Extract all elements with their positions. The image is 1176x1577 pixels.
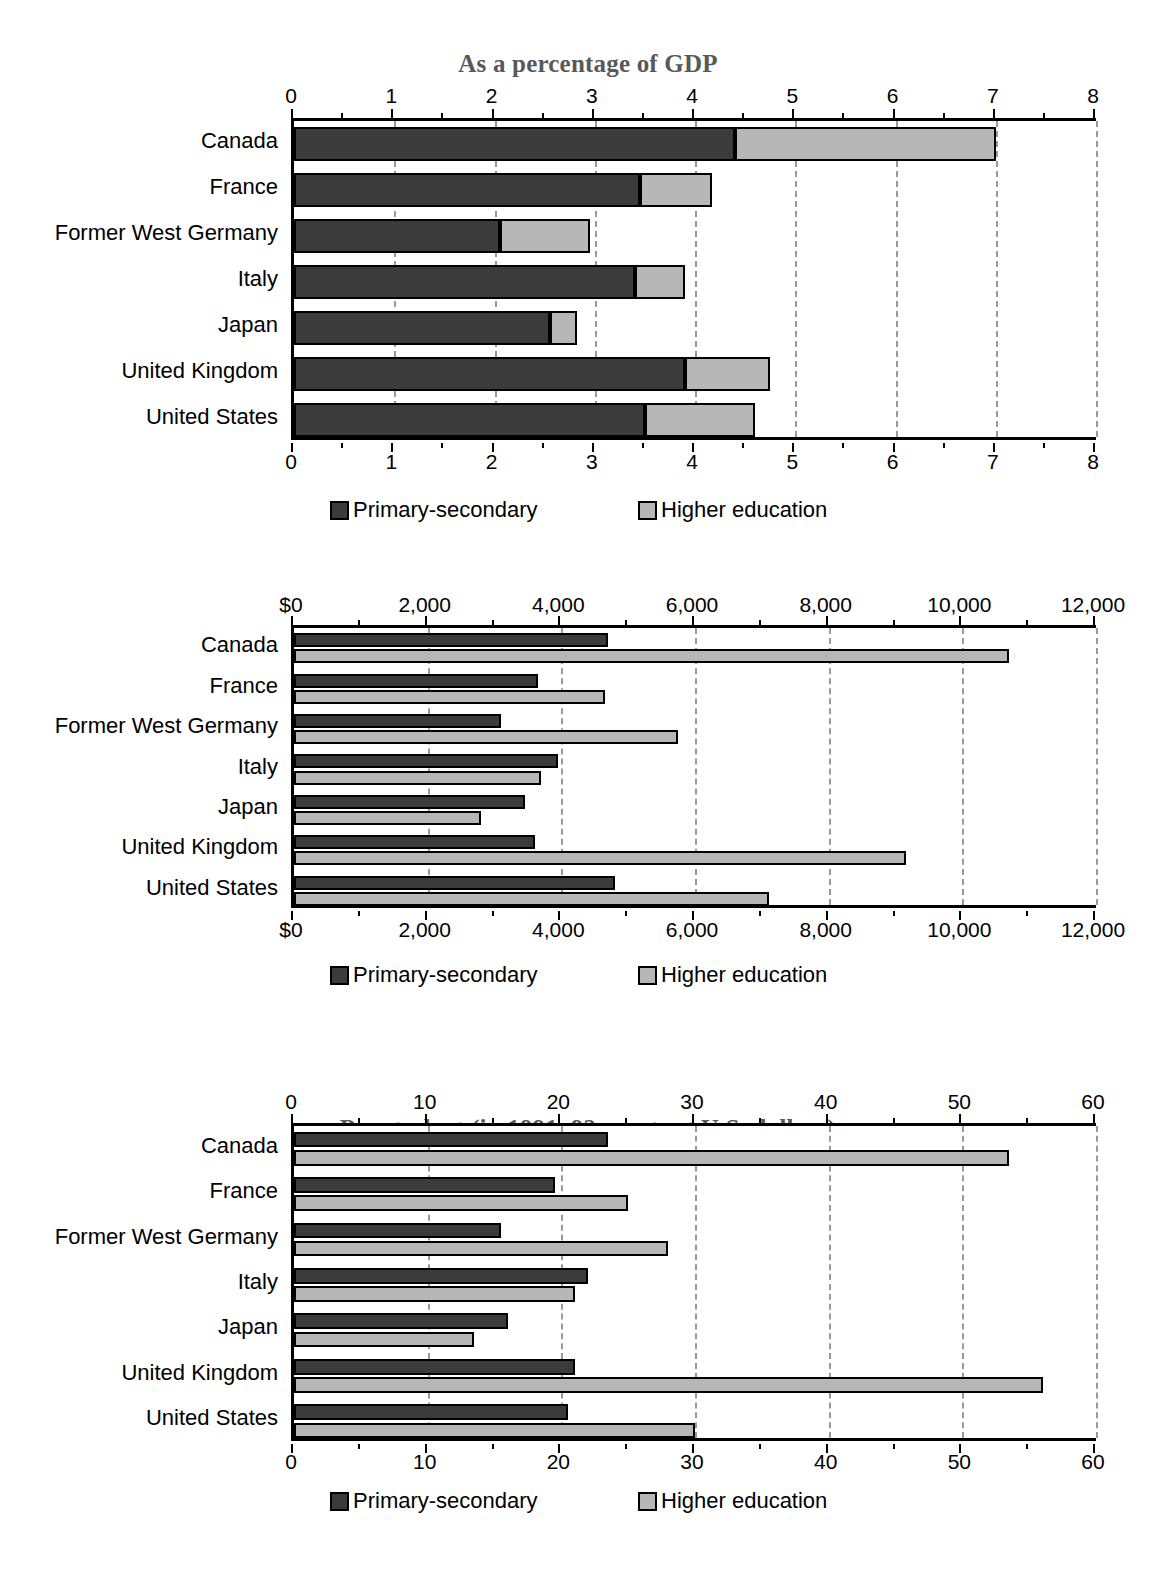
bar-group-row [294, 1262, 1096, 1307]
x-tick-label: 50 [948, 1090, 971, 1114]
x-tick-label: 40 [814, 1450, 837, 1474]
legend-item-higher-education[interactable]: Higher education [638, 962, 827, 988]
category-label: United States [0, 877, 278, 899]
bar-primary-secondary [294, 311, 550, 345]
category-label: Canada [0, 1135, 278, 1157]
legend-3: Primary-secondaryHigher education [0, 1488, 1176, 1516]
x-tick-label: 6 [887, 84, 899, 108]
plot-area-2 [291, 625, 1096, 908]
legend-2: Primary-secondaryHigher education [0, 962, 1176, 990]
category-label: Canada [0, 130, 278, 152]
category-label: United Kingdom [0, 360, 278, 382]
bar-higher-education [294, 1286, 575, 1302]
x-tick-label: 10 [413, 1450, 436, 1474]
x-tick-label: 50 [948, 1450, 971, 1474]
x-tick-label: 7 [987, 84, 999, 108]
legend-label-higher-education: Higher education [661, 497, 827, 523]
x-axis-labels-top-2: $02,0004,0006,0008,00010,00012,000 [0, 593, 1176, 617]
bar-primary-secondary [294, 795, 525, 809]
x-axis-ticks-top-2 [0, 616, 1176, 625]
bar-group-row [294, 1399, 1096, 1444]
x-tick-label: 3 [586, 84, 598, 108]
bar-primary-secondary [294, 1268, 588, 1284]
bar-primary-secondary [294, 403, 645, 437]
category-label: France [0, 176, 278, 198]
bar-higher-education [294, 1423, 695, 1439]
x-tick-label: 5 [786, 450, 798, 474]
x-tick-label: 10,000 [927, 593, 991, 617]
x-tick-label: 12,000 [1061, 593, 1125, 617]
bar-primary-secondary [294, 714, 501, 728]
bar-primary-secondary [294, 633, 608, 647]
bar-group-row [294, 871, 1096, 911]
bar-primary-secondary [294, 1223, 501, 1239]
bar-higher-education [500, 219, 590, 253]
x-axis-ticks-top-1 [0, 109, 1176, 118]
bar-group-row [294, 167, 1096, 213]
bar-primary-secondary [294, 127, 735, 161]
category-label: France [0, 675, 278, 697]
legend-label-primary-secondary: Primary-secondary [353, 962, 538, 988]
x-tick-label: 12,000 [1061, 918, 1125, 942]
x-tick-label: 2,000 [398, 918, 451, 942]
legend-swatch-icon [638, 1492, 657, 1511]
bar-group-row [294, 121, 1096, 167]
x-tick-label: 8,000 [799, 593, 852, 617]
bar-primary-secondary [294, 1313, 508, 1329]
x-tick-label: 0 [285, 1090, 297, 1114]
bar-group-row [294, 259, 1096, 305]
x-tick-label: 0 [285, 84, 297, 108]
legend-item-primary-secondary[interactable]: Primary-secondary [330, 497, 538, 523]
x-tick-label: 40 [814, 1090, 837, 1114]
bar-group-row [294, 1171, 1096, 1216]
bar-primary-secondary [294, 754, 558, 768]
x-tick-label: 8,000 [799, 918, 852, 942]
gridline [1096, 121, 1098, 437]
bar-group-row [294, 709, 1096, 749]
bar-higher-education [294, 730, 678, 744]
bar-higher-education [735, 127, 996, 161]
legend-swatch-icon [330, 1492, 349, 1511]
bar-higher-education [294, 1241, 668, 1257]
category-label: Former West Germany [0, 222, 278, 244]
x-axis-labels-bottom-1: 012345678 [0, 450, 1176, 474]
plot-area-3 [291, 1123, 1096, 1441]
x-tick-label: 60 [1081, 1090, 1104, 1114]
legend-item-primary-secondary[interactable]: Primary-secondary [330, 962, 538, 988]
legend-swatch-icon [330, 501, 349, 520]
category-label: United States [0, 1407, 278, 1429]
bar-primary-secondary [294, 219, 500, 253]
figure-page: As a percentage of GDP Per student (in 1… [0, 0, 1176, 1577]
bar-higher-education [294, 811, 481, 825]
x-tick-label: 4 [686, 84, 698, 108]
bar-higher-education [294, 1377, 1043, 1393]
bar-higher-education [294, 1195, 628, 1211]
bar-primary-secondary [294, 357, 685, 391]
bar-primary-secondary [294, 1359, 575, 1375]
category-label: France [0, 1180, 278, 1202]
legend-item-higher-education[interactable]: Higher education [638, 497, 827, 523]
x-tick-label: 10,000 [927, 918, 991, 942]
x-tick-label: 0 [285, 450, 297, 474]
category-label: Italy [0, 1271, 278, 1293]
bar-higher-education [294, 1150, 1009, 1166]
x-tick-label: 2,000 [398, 593, 451, 617]
x-tick-label: 4 [686, 450, 698, 474]
bar-group-row [294, 628, 1096, 668]
bar-higher-education [550, 311, 577, 345]
x-tick-label: 10 [413, 1090, 436, 1114]
category-label: Japan [0, 796, 278, 818]
legend-item-higher-education[interactable]: Higher education [638, 1488, 827, 1514]
gridline [1096, 1126, 1098, 1438]
x-tick-label: 5 [786, 84, 798, 108]
bar-primary-secondary [294, 876, 615, 890]
x-tick-label: 1 [385, 84, 397, 108]
legend-item-primary-secondary[interactable]: Primary-secondary [330, 1488, 538, 1514]
x-tick-label: 20 [547, 1090, 570, 1114]
bar-group-row [294, 749, 1096, 789]
x-tick-label: 6 [887, 450, 899, 474]
bar-group-row [294, 213, 1096, 259]
bar-primary-secondary [294, 835, 535, 849]
x-axis-labels-top-3: 0102030405060 [0, 1090, 1176, 1114]
bar-higher-education [294, 851, 906, 865]
